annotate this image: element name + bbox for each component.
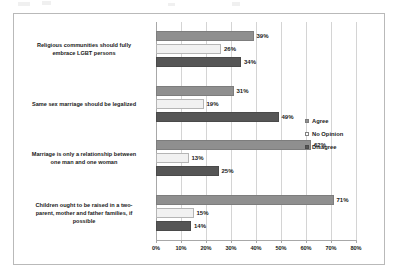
- x-tick-mark: [256, 240, 257, 243]
- bar-noopinion[interactable]: [156, 99, 204, 109]
- bar-row-agree: 39%: [156, 31, 356, 41]
- bar-disagree[interactable]: [156, 57, 241, 67]
- category-group: Religious communities should fullyembrac…: [156, 22, 356, 77]
- bar-row-disagree: 34%: [156, 57, 356, 67]
- legend-label-agree: Agree: [312, 118, 328, 124]
- bar-row-noopinion: 19%: [156, 99, 356, 109]
- legend-swatch-agree-icon: [305, 119, 309, 123]
- x-axis-tick-label: 40%: [250, 245, 261, 251]
- bar-disagree[interactable]: [156, 166, 219, 176]
- x-axis-tick-label: 80%: [350, 245, 361, 251]
- category-label: Same sex marriage should be legalized: [18, 100, 156, 108]
- x-tick-mark: [281, 240, 282, 243]
- x-axis-tick-label: 20%: [200, 245, 211, 251]
- x-axis-tick-label: 30%: [225, 245, 236, 251]
- bar-value-label: 49%: [279, 114, 294, 120]
- legend-item-agree[interactable]: Agree: [305, 117, 375, 124]
- x-tick-mark: [206, 240, 207, 243]
- bar-value-label: 13%: [189, 155, 204, 161]
- bar-noopinion[interactable]: [156, 44, 221, 54]
- legend-swatch-no-opinion-icon: [305, 132, 309, 136]
- category-label: Religious communities should fullyembrac…: [18, 41, 156, 57]
- chart-container: Religious communities should fullyembrac…: [13, 13, 385, 265]
- x-axis-tick-label: 0%: [152, 245, 160, 251]
- bar-disagree[interactable]: [156, 112, 279, 122]
- x-tick-mark: [306, 240, 307, 243]
- x-axis-tick-label: 70%: [325, 245, 336, 251]
- bar-value-label: 31%: [234, 88, 249, 94]
- x-tick-mark: [156, 240, 157, 243]
- bar-value-label: 19%: [204, 101, 219, 107]
- bar-value-label: 26%: [221, 46, 236, 52]
- bar-value-label: 25%: [219, 168, 234, 174]
- bar-agree[interactable]: [156, 195, 334, 205]
- legend-label-disagree: Disagree: [312, 144, 337, 150]
- bar-agree[interactable]: [156, 86, 234, 96]
- x-tick-mark: [181, 240, 182, 243]
- bar-noopinion[interactable]: [156, 208, 194, 218]
- x-tick-mark: [331, 240, 332, 243]
- bar-value-label: 39%: [254, 33, 269, 39]
- x-axis-tick-label: 50%: [275, 245, 286, 251]
- bar-row-agree: 31%: [156, 86, 356, 96]
- bar-row-disagree: 25%: [156, 166, 356, 176]
- bar-row-noopinion: 26%: [156, 44, 356, 54]
- scan-artifacts: [0, 0, 399, 12]
- category-group: Children ought to be raised in a two-par…: [156, 186, 356, 241]
- bar-value-label: 34%: [241, 59, 256, 65]
- bar-value-label: 15%: [194, 210, 209, 216]
- bar-agree[interactable]: [156, 140, 311, 150]
- bar-noopinion[interactable]: [156, 153, 189, 163]
- category-label: Marriage is only a relationship betweeno…: [18, 150, 156, 166]
- x-axis-tick-label: 60%: [300, 245, 311, 251]
- bar-row-agree: 71%: [156, 195, 356, 205]
- bar-disagree[interactable]: [156, 221, 191, 231]
- chart-legend: Agree No Opinion Disagree: [305, 117, 375, 156]
- legend-item-no-opinion[interactable]: No Opinion: [305, 130, 375, 137]
- x-tick-mark: [231, 240, 232, 243]
- legend-item-disagree[interactable]: Disagree: [305, 143, 375, 150]
- bar-agree[interactable]: [156, 31, 254, 41]
- bar-value-label: 71%: [334, 197, 349, 203]
- legend-swatch-disagree-icon: [305, 145, 309, 149]
- bar-row-disagree: 14%: [156, 221, 356, 231]
- bar-row-noopinion: 15%: [156, 208, 356, 218]
- bar-value-label: 14%: [191, 223, 206, 229]
- category-label: Children ought to be raised in a two-par…: [18, 201, 156, 225]
- x-axis-tick-label: 10%: [175, 245, 186, 251]
- legend-label-no-opinion: No Opinion: [312, 131, 343, 137]
- x-tick-mark: [356, 240, 357, 243]
